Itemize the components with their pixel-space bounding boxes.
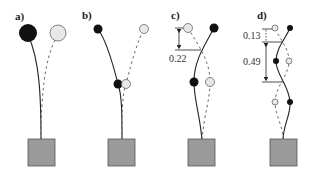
tip-mass-filled [19, 24, 37, 42]
panel-label-c: c) [171, 9, 180, 22]
mass-filled-mid [273, 58, 279, 64]
panel-label-a: a) [15, 10, 25, 23]
beam-deformed [276, 28, 290, 140]
base-block [108, 139, 135, 166]
mass-open-top [272, 25, 278, 31]
mass-open-top [184, 24, 193, 33]
mass-open-mid [286, 58, 292, 64]
base-block [188, 139, 215, 166]
mass-filled-top [94, 25, 103, 34]
tip-mass-open [50, 25, 66, 41]
beam-mirror [275, 28, 289, 140]
mass-filled-mid [190, 78, 199, 87]
dimension-label-0.49: 0.49 [243, 56, 261, 67]
beam-mirror [41, 38, 56, 140]
base-block [28, 139, 55, 166]
mass-open-mid [206, 78, 215, 87]
dimension-label-0.13: 0.13 [243, 30, 261, 41]
mass-filled-top [287, 25, 293, 31]
base-block [270, 139, 297, 166]
panel-a: a) [15, 10, 66, 166]
mass-open-top [140, 25, 149, 34]
dimension-label-0.22: 0.22 [169, 53, 187, 64]
mass-open-mid [122, 80, 131, 89]
mass-filled-low [287, 99, 293, 105]
panel-label-b: b) [82, 9, 92, 22]
beam-deformed [28, 35, 41, 140]
panel-b: b) [82, 9, 149, 166]
panel-c: c) 0.22 [169, 9, 219, 166]
panel-label-d: d) [257, 9, 267, 22]
panel-d: d) 0.13 0.49 [243, 9, 297, 166]
mass-filled-top [210, 24, 219, 33]
mass-open-low [272, 99, 278, 105]
mode-shapes-diagram: a) b) c) 0.22 d) [0, 0, 312, 172]
